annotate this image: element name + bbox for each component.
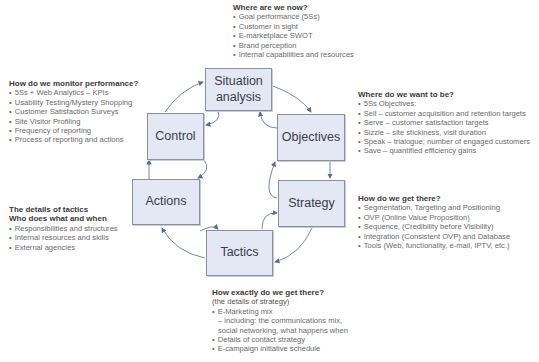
box-label-objectives: Objectives: [282, 130, 340, 146]
annotation-heading: How do we get there?: [358, 194, 510, 203]
box-actions: Actions: [132, 179, 200, 225]
box-control: Control: [147, 113, 204, 160]
list-item: Site Visitor Profiling: [9, 117, 138, 126]
list-item: Responsibilities and structures: [9, 224, 118, 233]
list-item: Frequency of reporting: [9, 126, 138, 135]
list-item: Customer in sight: [233, 22, 354, 31]
list-item: OVP (Online Value Proposition): [358, 213, 510, 222]
list-item: E-campaign initiative schedule: [212, 344, 348, 353]
annotation-heading: How do we monitor performance?: [9, 79, 138, 88]
loop-control-actions: [198, 160, 207, 178]
list-item: Internal capabilities and resources: [233, 50, 354, 59]
box-situation-analysis: Situation analysis: [205, 68, 272, 111]
list-item: Usability Testing/Mystery Shopping: [9, 98, 138, 107]
loop-objectives-situation: [260, 112, 277, 128]
annotation-control: How do we monitor performance? 5Ss + Web…: [9, 79, 138, 145]
box-label-situation: Situation: [214, 74, 263, 88]
list-item: Sequence, (Credibility before Visibility…: [358, 222, 510, 231]
annotation-actions: The details of tactics Who does what and…: [9, 205, 118, 252]
list-item: Process of reporting and actions: [9, 135, 138, 144]
list-item: Sizzle – site stickiness, visit duration: [358, 128, 530, 137]
annotation-situation: Where are we now? Goal performance (5Ss)…: [233, 3, 354, 59]
annotation-heading: How exactly do we get there?: [212, 288, 348, 297]
list-item: E-Marketing mix: [212, 307, 348, 316]
list-item: Brand perception: [233, 41, 354, 50]
list-item: Sell – customer acquisition and retentio…: [358, 109, 530, 118]
list-item: Save – quantified efficiency gains: [358, 146, 530, 155]
list-item: Integration (Consistent OVP) and Databas…: [358, 232, 510, 241]
box-objectives: Objectives: [277, 114, 345, 161]
annotation-heading: The details of tactics: [9, 205, 118, 214]
arrow-strategy-to-tactics: [275, 228, 312, 262]
annotation-tactics: How exactly do we get there? (the detail…: [212, 288, 348, 354]
list-item: Details of contact strategy: [212, 335, 348, 344]
list-item: Customer Satisfaction Surveys: [9, 107, 138, 116]
list-item: Goal performance (5Ss): [233, 12, 354, 21]
list-item: 5Ss + Web Analytics – KPIs: [9, 88, 138, 97]
annotation-subheading: (the details of strategy): [212, 297, 348, 306]
loop-situation-control: [206, 110, 219, 125]
list-item: E-marketplace SWOT: [233, 31, 354, 40]
list-item: 5Ss Objectives:: [358, 99, 530, 108]
box-label-strategy: Strategy: [288, 196, 335, 212]
box-tactics: Tactics: [206, 230, 273, 276]
annotation-heading: Where are we now?: [233, 3, 354, 12]
box-label-actions: Actions: [146, 194, 187, 210]
arrow-control-to-situation: [165, 82, 203, 112]
box-strategy: Strategy: [278, 180, 345, 227]
box-label-tactics: Tactics: [220, 245, 258, 261]
annotation-objectives: Where do we want to be? 5Ss Objectives: …: [358, 90, 530, 156]
box-label-control: Control: [155, 129, 195, 145]
list-item: Internal resources and skills: [9, 233, 118, 242]
list-item: social networking, what happens when: [212, 326, 348, 335]
list-item: – including: the communications mix,: [212, 316, 348, 325]
annotation-strategy: How do we get there? Segmentation, Targe…: [358, 194, 510, 250]
list-item: Segmentation, Targeting and Positioning: [358, 203, 510, 212]
loop-strategy-objectives: [269, 162, 277, 198]
loop-tactics-strategy: [262, 213, 277, 229]
list-item: External agencies: [9, 243, 118, 252]
annotation-heading: Where do we want to be?: [358, 90, 530, 99]
arrow-tactics-to-actions: [162, 228, 205, 258]
list-item: Serve – customer satisfaction targets: [358, 118, 530, 127]
annotation-heading-2: Who does what and when: [9, 214, 118, 223]
list-item: Speak – trialogue; number of engaged cus…: [358, 137, 530, 146]
list-item: Tools (Web, functionality, e-mail, IPTV,…: [358, 241, 510, 250]
arrow-situation-to-objectives: [273, 86, 311, 112]
box-label-analysis: analysis: [216, 90, 261, 104]
